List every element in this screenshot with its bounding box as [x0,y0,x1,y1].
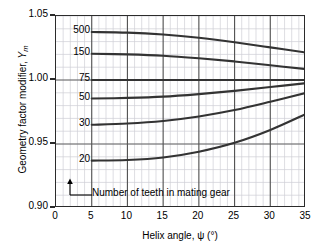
curve-label-150: 150 [56,46,90,57]
curve-label-500: 500 [56,24,90,35]
curve-20 [92,114,305,161]
curve-150 [92,54,305,69]
y-tick-label: 0.95 [2,136,48,147]
x-tick-label: 5 [71,210,111,221]
annotation-text: Number of teeth in mating gear [92,187,230,198]
y-axis-label: Geometry factor modifier, Ym [17,10,30,210]
y-tick-label: 1.00 [2,72,48,83]
curve-500 [92,32,305,52]
y-axis-label-variable: Y [17,52,28,59]
x-axis-label: Helix angle, ψ (°) [55,230,305,241]
curve-label-30: 30 [56,117,90,128]
x-tick-label: 10 [106,210,146,221]
y-tick-label: 1.05 [2,8,48,19]
curve-50 [92,83,305,98]
curve-label-50: 50 [56,91,90,102]
x-tick-label: 30 [249,210,289,221]
x-tick-label: 35 [285,210,317,221]
x-tick-label: 0 [35,210,75,221]
x-tick-label: 20 [178,210,218,221]
chart-figure: Geometry factor modifier, Ym 1.051.000.9… [0,0,317,249]
curve-label-75: 75 [56,72,90,83]
curve-label-20: 20 [56,153,90,164]
x-tick-label: 25 [214,210,254,221]
x-tick-label: 15 [142,210,182,221]
y-axis-label-subscript: m [21,46,30,52]
